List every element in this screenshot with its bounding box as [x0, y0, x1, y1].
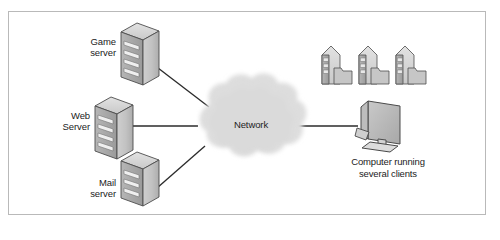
client-instance-1	[322, 46, 352, 84]
link-game-server-to-network	[158, 68, 209, 107]
network-diagram-figure: Game server Web Server Mail server Netwo…	[0, 0, 500, 240]
link-mail-server-to-network	[157, 146, 205, 188]
server-tower-icon-web	[95, 97, 133, 159]
label-network: Network	[215, 119, 287, 130]
label-web-server: Web Server	[32, 110, 90, 132]
desktop-computer-icon	[355, 101, 400, 152]
server-tower-icon-game	[121, 23, 159, 85]
server-tower-icon-mail	[121, 152, 159, 206]
caption-client-computer: Computer running several clients	[327, 156, 449, 179]
client-instance-2	[359, 46, 389, 84]
label-game-server: Game server	[58, 36, 116, 58]
client-instance-3	[396, 46, 426, 84]
label-mail-server: Mail server	[58, 177, 116, 199]
